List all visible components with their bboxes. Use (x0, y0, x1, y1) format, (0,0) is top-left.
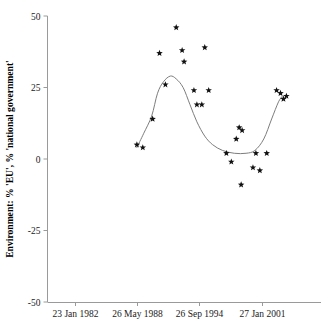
data-point-marker (257, 167, 263, 173)
x-tick-label: 26 Sep 1994 (176, 309, 224, 319)
data-point-marker (194, 101, 200, 107)
data-point-marker (205, 87, 211, 93)
trend-curve (137, 76, 283, 154)
data-point-marker (179, 47, 185, 53)
x-axis-tick-labels: 23 Jan 198226 May 198826 Sep 199427 Jan … (53, 309, 286, 319)
scatter-plot-svg: 50250-25-50 Environment: % 'EU', % 'nati… (0, 0, 326, 328)
data-point-marker (202, 44, 208, 50)
data-point-marker (156, 50, 162, 56)
fit-line-path (137, 76, 283, 154)
data-point-marker (228, 158, 234, 164)
data-point-marker (140, 144, 146, 150)
data-point-marker (238, 181, 244, 187)
chart-container: 50250-25-50 Environment: % 'EU', % 'nati… (0, 0, 326, 328)
data-point-marker (264, 150, 270, 156)
y-tick-label: -25 (28, 226, 41, 236)
y-tick-label: 50 (31, 12, 41, 22)
y-tick-label: 25 (31, 83, 41, 93)
y-axis-ticks: 50250-25-50 (28, 12, 48, 308)
data-point-marker (277, 90, 283, 96)
data-point-marker (250, 164, 256, 170)
data-points (134, 24, 290, 187)
y-axis-label: Environment: % 'EU', % 'national governm… (4, 60, 15, 258)
data-point-marker (199, 101, 205, 107)
data-point-marker (233, 136, 239, 142)
y-axis-label-text: Environment: % 'EU', % 'national governm… (4, 60, 15, 258)
x-tick-label: 23 Jan 1982 (53, 309, 99, 319)
y-tick-label: 0 (36, 155, 41, 165)
x-tick-label: 27 Jan 2001 (240, 309, 286, 319)
data-point-marker (191, 87, 197, 93)
data-point-marker (173, 24, 179, 30)
x-tick-label: 26 May 1988 (112, 309, 163, 319)
data-point-marker (149, 116, 155, 122)
y-tick-label: -50 (28, 298, 41, 308)
data-point-marker (181, 58, 187, 64)
